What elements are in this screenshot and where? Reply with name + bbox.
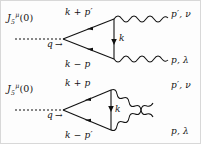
top-operator-label: J5μ(0) xyxy=(7,12,33,25)
bottom-operator-label: J5μ(0) xyxy=(7,83,33,96)
bottom-upper-fermion-label: k + p xyxy=(65,79,90,88)
top-vertical-fermion-label: k xyxy=(119,34,125,43)
bottom-diagram-group xyxy=(15,90,153,131)
bottom-incoming-momentum-label: q→ xyxy=(47,111,63,120)
bottom-vertical-fermion-arrow xyxy=(108,106,114,112)
bottom-vertical-fermion-label: k xyxy=(115,105,121,114)
top-operator-argument: (0) xyxy=(19,12,33,23)
top-upper-photon-wavy xyxy=(114,16,168,22)
top-outgoing-photon-upper-label: p′, ν xyxy=(171,10,191,19)
top-incoming-momentum-label: q→ xyxy=(47,40,63,49)
top-diagram-group xyxy=(15,16,168,62)
top-upper-fermion-label: k + p′ xyxy=(65,8,93,17)
bottom-outgoing-photon-upper-label: p′, ν xyxy=(171,81,191,90)
top-lower-fermion-label: k − p xyxy=(65,60,90,69)
bottom-operator-argument: (0) xyxy=(19,83,33,94)
bottom-q-arrow: → xyxy=(53,110,63,120)
top-lower-photon-wavy xyxy=(114,56,168,62)
top-outgoing-photon-lower-label: p, λ xyxy=(171,56,189,65)
top-operator-subscript: 5 xyxy=(11,18,15,25)
bottom-outgoing-photon-lower-label: p, λ xyxy=(171,127,189,136)
bottom-operator-subscript: 5 xyxy=(11,89,15,96)
figure-canvas: J5μ(0) q→ k + p′ k − p k p′, ν p, λ J5μ(… xyxy=(0,0,201,144)
top-vertical-fermion-arrow xyxy=(111,39,117,45)
top-q-arrow: → xyxy=(53,39,63,49)
bottom-lower-fermion-label: k − p′ xyxy=(65,131,93,140)
